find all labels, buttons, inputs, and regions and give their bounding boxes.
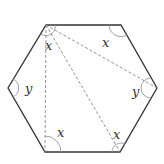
angle-arc-left [13, 79, 19, 97]
angle-label-bottom-right: x [113, 127, 121, 142]
angle-label-left: y [24, 81, 33, 96]
hexagon-diagram: x x y y x x [0, 0, 164, 164]
angle-label-top-right: x [102, 35, 110, 50]
angle-label-right: y [131, 84, 140, 99]
angle-label-bottom-left: x [57, 125, 65, 140]
angle-label-top-left: x [45, 38, 53, 53]
angle-arc-right [141, 78, 151, 98]
